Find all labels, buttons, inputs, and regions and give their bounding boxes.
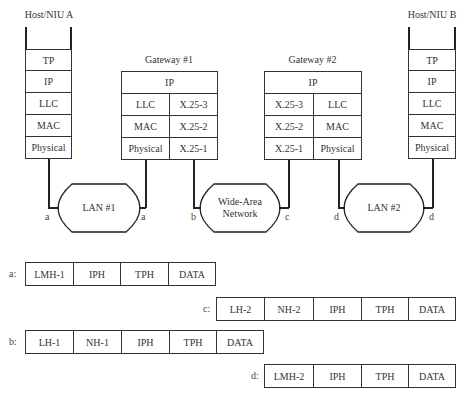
gateway2-mac: MAC	[313, 115, 362, 138]
packet-b-field-nh1: NH-1	[73, 330, 122, 354]
link-d-right-vertical	[432, 159, 434, 208]
link-a-right-horizontal	[139, 207, 146, 209]
link-label-d-right: d	[429, 211, 434, 222]
packet-b-field-data: DATA	[216, 330, 264, 354]
link-label-a-left: a	[45, 211, 49, 222]
packet-b-field-tph: TPH	[169, 330, 217, 354]
link-b-vertical	[193, 160, 195, 208]
packet-b-field-lh1: LH-1	[25, 330, 74, 354]
host-b-right-rail	[454, 27, 456, 50]
gateway1-mac: MAC	[121, 115, 170, 138]
link-d-right-horizontal	[423, 207, 433, 209]
packet-b-label: b:	[9, 336, 17, 347]
host-b-title: Host/NIU B	[398, 9, 466, 20]
host-a-right-rail	[70, 27, 72, 50]
gateway1-llc: LLC	[121, 93, 170, 116]
packet-a-field-data: DATA	[168, 262, 216, 286]
host-b-layer-llc: LLC	[408, 92, 456, 115]
packet-c-field-iph: IPH	[313, 297, 362, 321]
link-c-horizontal	[279, 207, 289, 209]
gateway1-ip: IP	[121, 71, 218, 94]
link-label-c: c	[285, 211, 289, 222]
gateway2-title: Gateway #2	[264, 54, 361, 65]
packet-a-field-lmh1: LMH-1	[25, 262, 74, 286]
packet-c-field-tph: TPH	[361, 297, 409, 321]
packet-d-label: d:	[251, 370, 259, 381]
host-a-title: Host/NIU A	[15, 9, 83, 20]
host-b-left-rail	[408, 27, 410, 50]
host-a-layer-ip: IP	[25, 70, 72, 93]
packet-d-field-tph: TPH	[361, 364, 409, 388]
gateway2-x25-2: X.25-2	[264, 115, 314, 138]
link-d-left-vertical	[338, 160, 340, 208]
packet-a-field-iph: IPH	[73, 262, 121, 286]
gateway1-physical: Physical	[121, 137, 170, 160]
host-a-layer-physical: Physical	[25, 136, 72, 159]
host-a-layer-tp: TP	[25, 49, 72, 71]
host-b-layer-tp: TP	[408, 49, 456, 71]
packet-d-field-lmh2: LMH-2	[264, 364, 314, 388]
link-label-d-left: d	[334, 211, 339, 222]
packet-c-label: c:	[203, 303, 210, 314]
packet-b-field-iph: IPH	[121, 330, 170, 354]
lan1-label: LAN #1	[58, 202, 140, 214]
link-label-a-right: a	[141, 211, 145, 222]
wan-label-line1: Wide-Area	[200, 196, 280, 208]
link-c-vertical	[288, 160, 290, 208]
host-a-layer-mac: MAC	[25, 114, 72, 137]
gateway2-physical: Physical	[313, 137, 362, 160]
gateway2-x25-1: X.25-1	[264, 137, 314, 160]
link-label-b: b	[191, 211, 196, 222]
lan2-label: LAN #2	[344, 202, 424, 214]
packet-c-field-lh2: LH-2	[216, 297, 265, 321]
host-a-layer-llc: LLC	[25, 92, 72, 115]
gateway2-llc: LLC	[313, 93, 362, 116]
packet-c-field-nh2: NH-2	[264, 297, 314, 321]
gateway1-x25-3: X.25-3	[169, 93, 218, 116]
gateway2-x25-3: X.25-3	[264, 93, 314, 116]
host-b-layer-physical: Physical	[408, 136, 456, 159]
gateway1-x25-2: X.25-2	[169, 115, 218, 138]
packet-a-label: a:	[9, 268, 16, 279]
host-b-layer-ip: IP	[408, 70, 456, 93]
gateway1-x25-1: X.25-1	[169, 137, 218, 160]
packet-c-field-data: DATA	[408, 297, 456, 321]
link-a-left-vertical	[48, 159, 50, 208]
packet-a-field-tph: TPH	[120, 262, 169, 286]
host-a-left-rail	[25, 27, 27, 50]
host-b-layer-mac: MAC	[408, 114, 456, 137]
link-a-right-vertical	[145, 160, 147, 208]
wan-label-line2: Network	[200, 208, 280, 220]
packet-d-field-iph: IPH	[313, 364, 362, 388]
gateway2-ip: IP	[264, 71, 362, 94]
packet-d-field-data: DATA	[408, 364, 456, 388]
gateway1-title: Gateway #1	[121, 54, 217, 65]
